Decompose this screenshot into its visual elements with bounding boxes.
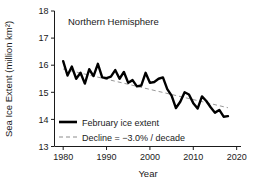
chart-canvas: 131415161718 19801990200020102020 Northe… <box>0 0 259 189</box>
x-tick-label: 2000 <box>140 152 160 162</box>
y-tick-label: 13 <box>38 142 48 152</box>
y-tick-label: 14 <box>38 115 48 125</box>
y-tick-label: 16 <box>38 60 48 70</box>
x-tick-label: 2010 <box>183 152 203 162</box>
x-axis-title: Year <box>138 168 157 179</box>
x-tick-label: 2020 <box>227 152 247 162</box>
sea-ice-extent-chart: 131415161718 19801990200020102020 Northe… <box>0 0 259 189</box>
y-tick-label: 17 <box>38 33 48 43</box>
x-tick-label: 1990 <box>97 152 117 162</box>
y-tick-label: 18 <box>38 6 48 16</box>
legend-label-decline: Decline = −3.0% / decade <box>82 133 185 143</box>
legend-label-february-ice-extent: February ice extent <box>82 118 160 128</box>
panel-title: Northern Hemisphere <box>68 16 159 27</box>
x-tick-label: 1980 <box>53 152 73 162</box>
y-axis-title: Sea Ice Extent (million km²) <box>3 21 14 137</box>
y-tick-label: 15 <box>38 88 48 98</box>
